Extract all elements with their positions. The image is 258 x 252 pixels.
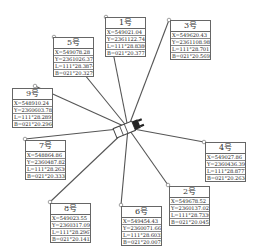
coordinate-row: X=549454.43 xyxy=(122,218,161,225)
coordinate-row: Y=2361026.37 xyxy=(54,56,93,63)
point-title: 1号 xyxy=(106,18,145,29)
point-title: 6号 xyxy=(122,207,161,218)
point-label-box-4: 4号X=549027.86Y=2360436.39L=111°28.8777B=… xyxy=(205,142,246,182)
point-title: 8号 xyxy=(51,204,90,215)
coordinate-row: Y=2360317.09 xyxy=(51,222,90,229)
point-label-box-7: 7号X=548864.86Y=2360487.82L=111°28.2630B=… xyxy=(25,140,66,180)
point-title: 5号 xyxy=(54,38,93,49)
coordinate-row: Y=2361122.74 xyxy=(106,36,145,43)
coordinate-row: B=021°20.3279 xyxy=(54,70,93,76)
coordinate-row: L=111°28.2895 xyxy=(13,114,52,121)
coordinate-row: X=549021.04 xyxy=(106,29,145,36)
coordinate-row: X=549678.52 xyxy=(170,198,209,205)
coordinate-row: L=111°28.2967 xyxy=(51,229,90,236)
coordinate-row: X=549620.43 xyxy=(171,32,210,39)
coordinate-row: X=549027.86 xyxy=(206,154,245,161)
point-title: 2号 xyxy=(170,187,209,198)
point-label-box-2: 2号X=549678.52Y=2360137.02L=111°28.7330B=… xyxy=(169,186,210,226)
coordinate-row: L=111°28.8777 xyxy=(206,168,245,175)
radial-coordinate-diagram: 1号X=549021.04Y=2361122.74L=111°28.8380B=… xyxy=(0,0,258,252)
point-label-box-8: 8号X=549023.55Y=2360317.09L=111°28.2967B=… xyxy=(50,203,91,243)
point-label-box-3: 3号X=549620.43Y=2361108.98L=111°28.7011B=… xyxy=(170,20,211,60)
coordinate-row: B=021°20.3771 xyxy=(106,50,145,56)
coordinate-row: B=021°20.3338 xyxy=(26,173,65,179)
point-title: 9号 xyxy=(13,89,52,100)
coordinate-row: X=548864.86 xyxy=(26,152,65,159)
point-label-box-9: 9号X=548910.24Y=2360603.78L=111°28.2895B=… xyxy=(12,88,53,128)
coordinate-row: B=021°20.1412 xyxy=(51,236,90,242)
coordinate-row: L=111°28.2630 xyxy=(26,166,65,173)
point-label-box-5: 5号X=549078.28Y=2361026.37L=111°28.3874B=… xyxy=(53,37,94,77)
coordinate-row: B=021°20.2966 xyxy=(13,121,52,127)
point-label-box-6: 6号X=549454.43Y=2360071.66L=111°28.6035B=… xyxy=(121,206,162,246)
coordinate-row: Y=2360071.66 xyxy=(122,225,161,232)
coordinate-row: L=111°28.3874 xyxy=(54,63,93,70)
point-label-box-1: 1号X=549021.04Y=2361122.74L=111°28.8380B=… xyxy=(105,17,146,57)
coordinate-row: X=549023.55 xyxy=(51,215,90,222)
coordinate-row: X=549078.28 xyxy=(54,49,93,56)
coordinate-row: L=111°28.7011 xyxy=(171,46,210,53)
coordinate-row: L=111°28.7330 xyxy=(170,212,209,219)
coordinate-row: Y=2360603.78 xyxy=(13,107,52,114)
coordinate-row: Y=2361108.98 xyxy=(171,39,210,46)
coordinate-row: L=111°28.8380 xyxy=(106,43,145,50)
coordinate-row: B=021°20.0452 xyxy=(170,219,209,225)
coordinate-row: L=111°28.6035 xyxy=(122,232,161,239)
coordinate-row: X=548910.24 xyxy=(13,100,52,107)
point-title: 4号 xyxy=(206,143,245,154)
coordinate-row: B=021°20.0075 xyxy=(122,239,161,245)
coordinate-row: Y=2360436.39 xyxy=(206,161,245,168)
coordinate-row: Y=2360487.82 xyxy=(26,159,65,166)
coordinate-row: Y=2360137.02 xyxy=(170,205,209,212)
coordinate-row: B=021°20.5692 xyxy=(171,53,210,59)
point-title: 7号 xyxy=(26,141,65,152)
point-title: 3号 xyxy=(171,21,210,32)
coordinate-row: B=021°20.2634 xyxy=(206,175,245,181)
